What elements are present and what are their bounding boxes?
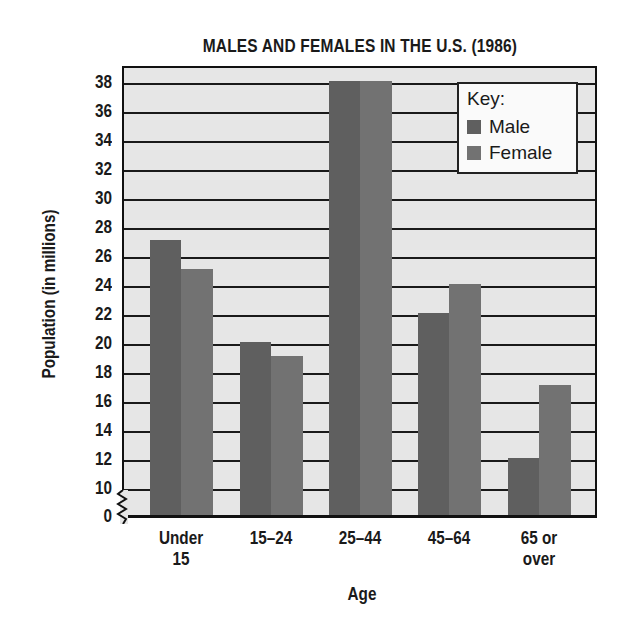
legend-title: Key: <box>467 88 568 114</box>
female-swatch-icon <box>467 146 481 160</box>
bar-female <box>271 356 303 515</box>
legend: Key: Male Female <box>457 82 578 174</box>
y-tick-label: 22 <box>78 304 112 325</box>
y-tick-label: 34 <box>78 130 112 151</box>
y-tick-label: 18 <box>78 362 112 383</box>
y-tick-label: 20 <box>78 333 112 354</box>
x-tick-label: 15–24 <box>233 528 310 549</box>
x-tick-label: 45–64 <box>411 528 488 549</box>
x-tick-label: 25–44 <box>322 528 399 549</box>
bar-female <box>360 81 392 515</box>
bar-male <box>329 81 360 515</box>
y-tick-label: 0 <box>78 506 112 527</box>
y-tick-label: 28 <box>78 217 112 238</box>
legend-item-female: Female <box>467 140 568 166</box>
chart-title: MALES AND FEMALES IN THE U.S. (1986) <box>155 36 564 57</box>
y-tick-label: 12 <box>78 449 112 470</box>
bar-male <box>150 240 181 515</box>
bar-male <box>240 342 271 515</box>
x-tick-label: 65 orover <box>501 528 578 570</box>
male-swatch-icon <box>467 120 481 134</box>
y-tick-label: 36 <box>78 101 112 122</box>
y-tick-label: 32 <box>78 159 112 180</box>
y-tick-label: 38 <box>78 72 112 93</box>
y-tick-label: 10 <box>78 478 112 499</box>
axis-break-icon <box>114 490 128 524</box>
bar-female <box>449 284 481 515</box>
legend-label-male: Male <box>489 116 530 138</box>
x-tick-label: Under15 <box>143 528 220 570</box>
legend-item-male: Male <box>467 114 568 140</box>
legend-label-female: Female <box>489 142 552 164</box>
bar-female <box>181 269 213 515</box>
x-axis-label: Age <box>328 584 396 605</box>
y-tick-label: 26 <box>78 246 112 267</box>
bar-male <box>508 458 539 515</box>
y-tick-label: 30 <box>78 188 112 209</box>
bar-male <box>418 313 449 515</box>
bar-female <box>539 385 571 515</box>
y-axis-label: Population (in millions) <box>39 209 60 378</box>
y-tick-label: 16 <box>78 391 112 412</box>
y-tick-label: 24 <box>78 275 112 296</box>
y-tick-label: 14 <box>78 420 112 441</box>
